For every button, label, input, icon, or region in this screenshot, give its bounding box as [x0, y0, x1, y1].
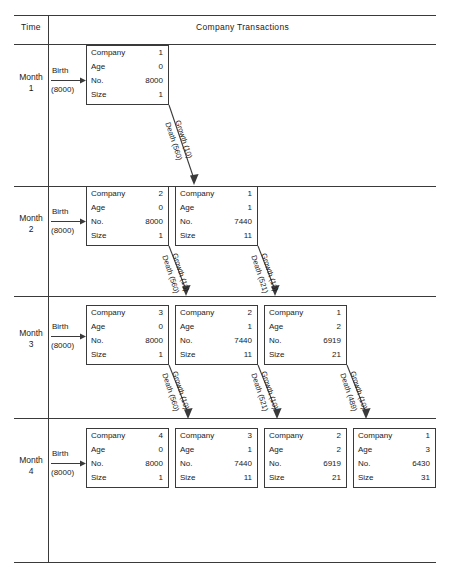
field-value-company: 4: [159, 429, 163, 443]
transition-arrow-group: Growth (10) Death (560): [169, 365, 209, 421]
field-label-no: No.: [180, 334, 192, 348]
field-label-size: Size: [269, 348, 285, 362]
company-box[interactable]: Company 3 Age 0 No. 8000 Size 1: [86, 305, 169, 365]
box-row-size: Size 21: [265, 471, 346, 485]
field-value-size: 11: [244, 471, 252, 485]
field-label-age: Age: [269, 443, 283, 457]
company-box[interactable]: Company 2 Age 1 No. 7440 Size 11: [175, 305, 258, 365]
month-word-2: Month: [19, 213, 43, 223]
company-box[interactable]: Company 2 Age 2 No. 6919 Size 21: [264, 428, 347, 488]
month-label-4: Month 4: [14, 455, 48, 477]
field-value-no: 8000: [145, 74, 163, 88]
box-row-company: Company 2: [265, 429, 346, 443]
field-value-company: 1: [426, 429, 430, 443]
birth-arrow-group-3: Birth (8000): [50, 322, 88, 351]
field-value-company: 1: [248, 187, 252, 201]
transition-arrow-group: Growth (10) Death (521): [258, 246, 298, 298]
box-row-age: Age 0: [87, 320, 168, 334]
birth-label-1: Birth: [50, 66, 88, 76]
box-row-size: Size 11: [176, 348, 257, 362]
box-row-company: Company 3: [87, 306, 168, 320]
birth-arrow-group-2: Birth (8000): [50, 207, 88, 236]
field-label-no: No.: [180, 215, 192, 229]
box-row-no: No. 8000: [87, 74, 168, 88]
field-label-age: Age: [91, 320, 105, 334]
month-number-2: 2: [29, 224, 34, 234]
month-label-1: Month 1: [14, 72, 48, 94]
box-row-company: Company 2: [176, 306, 257, 320]
field-value-age: 2: [337, 443, 341, 457]
box-row-company: Company 4: [87, 429, 168, 443]
transition-arrow-group: Growth (10) Death (489): [347, 365, 387, 421]
birth-amount-1: (8000): [50, 85, 88, 95]
box-row-size: Size 1: [87, 88, 168, 102]
field-label-company: Company: [180, 306, 214, 320]
field-label-size: Size: [358, 471, 374, 485]
diagram-canvas: Time Company Transactions Month 1 Birth …: [0, 0, 449, 579]
company-box[interactable]: Company 1 Age 1 No. 7440 Size 11: [175, 186, 258, 246]
field-value-no: 6919: [323, 334, 341, 348]
field-label-company: Company: [358, 429, 392, 443]
company-box[interactable]: Company 4 Age 0 No. 8000 Size 1: [86, 428, 169, 488]
field-label-no: No.: [91, 215, 103, 229]
month-number-1: 1: [29, 83, 34, 93]
field-value-age: 2: [337, 320, 341, 334]
field-value-size: 1: [159, 88, 163, 102]
company-box[interactable]: Company 1 Age 3 No. 6430 Size 31: [353, 428, 436, 488]
box-row-age: Age 3: [354, 443, 435, 457]
company-box[interactable]: Company 1 Age 2 No. 6919 Size 21: [264, 305, 347, 365]
birth-arrow-group-1: Birth (8000): [50, 66, 88, 95]
box-row-age: Age 1: [176, 320, 257, 334]
header-bottom-border: [14, 44, 436, 45]
company-box[interactable]: Company 2 Age 0 No. 8000 Size 1: [86, 186, 169, 246]
box-row-size: Size 1: [87, 348, 168, 362]
field-label-age: Age: [91, 60, 105, 74]
month-number-3: 3: [29, 339, 34, 349]
birth-arrow-icon-2: [50, 217, 86, 226]
month-word-4: Month: [19, 455, 43, 465]
field-label-company: Company: [269, 306, 303, 320]
box-row-no: No. 6919: [265, 457, 346, 471]
field-label-company: Company: [91, 46, 125, 60]
field-label-company: Company: [180, 429, 214, 443]
field-label-size: Size: [91, 471, 107, 485]
header-time-label: Time: [14, 22, 48, 32]
field-value-age: 0: [159, 443, 163, 457]
field-value-size: 31: [421, 471, 430, 485]
transition-arrow-group: Growth (10) Death (560): [169, 105, 209, 187]
field-label-age: Age: [91, 443, 105, 457]
field-value-size: 11: [244, 348, 252, 362]
box-row-size: Size 21: [265, 348, 346, 362]
field-value-company: 1: [159, 46, 163, 60]
box-row-no: No. 8000: [87, 457, 168, 471]
box-row-size: Size 31: [354, 471, 435, 485]
field-value-size: 21: [332, 471, 341, 485]
field-label-size: Size: [180, 348, 196, 362]
field-label-age: Age: [91, 201, 105, 215]
field-label-size: Size: [91, 229, 107, 243]
box-row-size: Size 11: [176, 471, 257, 485]
box-row-company: Company 3: [176, 429, 257, 443]
field-label-company: Company: [91, 306, 125, 320]
field-value-size: 21: [332, 348, 341, 362]
box-row-company: Company 1: [354, 429, 435, 443]
field-value-no: 7440: [234, 334, 252, 348]
field-value-no: 8000: [145, 457, 163, 471]
box-row-size: Size 11: [176, 229, 257, 243]
birth-arrow-icon-3: [50, 332, 86, 341]
field-value-company: 1: [337, 306, 341, 320]
field-value-company: 3: [159, 306, 163, 320]
birth-arrow-group-4: Birth (8000): [50, 449, 88, 478]
field-label-no: No.: [91, 74, 103, 88]
box-row-age: Age 0: [87, 201, 168, 215]
field-value-size: 1: [159, 229, 163, 243]
field-label-size: Size: [91, 348, 107, 362]
box-row-age: Age 0: [87, 443, 168, 457]
company-box[interactable]: Company 3 Age 1 No. 7440 Size 11: [175, 428, 258, 488]
month-word-1: Month: [19, 72, 43, 82]
field-label-age: Age: [269, 320, 283, 334]
company-box[interactable]: Company 1 Age 0 No. 8000 Size 1: [86, 45, 169, 105]
birth-arrow-icon-4: [50, 459, 86, 468]
field-value-company: 3: [248, 429, 252, 443]
table-bottom-border: [14, 562, 436, 563]
